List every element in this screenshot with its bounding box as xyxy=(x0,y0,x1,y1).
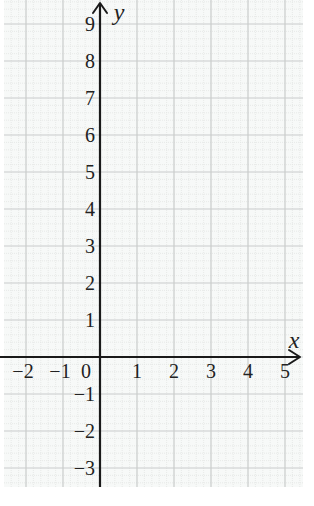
y-tick-label: 4 xyxy=(85,198,95,220)
x-tick-label: 1 xyxy=(132,360,142,382)
x-tick-label: 5 xyxy=(280,360,290,382)
origin-label: 0 xyxy=(81,360,91,382)
y-tick-label: 2 xyxy=(85,272,95,294)
y-tick-label: −2 xyxy=(74,420,95,442)
y-tick-label: 7 xyxy=(85,87,95,109)
y-tick-label: 8 xyxy=(85,50,95,72)
x-tick-label: 2 xyxy=(169,360,179,382)
y-tick-label: −1 xyxy=(74,383,95,405)
x-tick-label: −2 xyxy=(12,360,33,382)
y-axis-label: y xyxy=(112,0,125,25)
coordinate-grid-chart: −2−112345 −3−2−1123456789 0 x y xyxy=(0,0,314,506)
y-tick-label: 5 xyxy=(85,161,95,183)
y-tick-label: 9 xyxy=(85,13,95,35)
x-tick-label: −1 xyxy=(49,360,70,382)
y-tick-label: −3 xyxy=(74,457,95,479)
y-tick-label: 1 xyxy=(85,309,95,331)
x-axis-label: x xyxy=(288,327,300,353)
y-tick-label: 6 xyxy=(85,124,95,146)
graph-paper-background xyxy=(4,0,303,487)
y-tick-label: 3 xyxy=(85,235,95,257)
x-tick-label: 4 xyxy=(243,360,253,382)
x-tick-label: 3 xyxy=(206,360,216,382)
